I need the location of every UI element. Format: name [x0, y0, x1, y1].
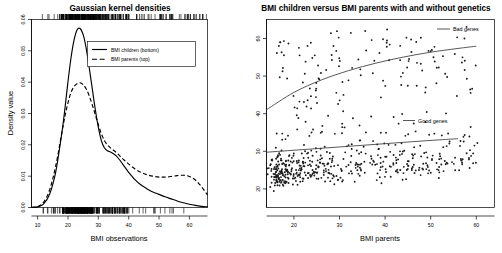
- right-y-axis: 20 30 40 50 60: [255, 20, 267, 208]
- left-rug-bottom: [43, 208, 184, 214]
- right-y-tick-1: 30: [255, 148, 261, 154]
- right-x-axis-label: BMI parents: [360, 234, 400, 243]
- left-y-tick-4: 0.04: [20, 77, 26, 87]
- right-plot-frame: [267, 20, 495, 208]
- left-x-tick-1: 20: [65, 222, 71, 228]
- left-x-tick-0: 10: [35, 222, 41, 228]
- legend-label-children: BMI children (bottom): [111, 47, 159, 53]
- left-x-axis: 10 20 30 40 50 60: [32, 216, 208, 228]
- left-plot-title: Gaussian kernel densities: [69, 4, 170, 13]
- left-plot-legend: BMI children (bottom) BMI parents (top): [88, 42, 196, 67]
- left-plot-panel: Gaussian kernel densities 0.00 0.01 0.02…: [0, 0, 251, 253]
- left-x-axis-label: BMI observations: [90, 234, 147, 243]
- scatter-points: [266, 26, 478, 192]
- trend-line-good-genes: [267, 139, 459, 153]
- left-y-tick-5: 0.05: [20, 46, 26, 56]
- left-x-tick-4: 50: [156, 222, 162, 228]
- figure-root: Gaussian kernel densities 0.00 0.01 0.02…: [0, 0, 502, 253]
- left-y-tick-3: 0.03: [20, 108, 26, 118]
- legend-label-parents: BMI parents (top): [111, 56, 150, 62]
- left-x-tick-3: 40: [126, 222, 132, 228]
- right-y-tick-4: 60: [255, 36, 261, 42]
- right-x-tick-3: 50: [428, 222, 434, 228]
- right-y-axis-label: BMI children: [251, 0, 272, 2]
- gaussian-kernel-densities-chart: Gaussian kernel densities 0.00 0.01 0.02…: [0, 0, 251, 253]
- left-rug-top: [42, 14, 206, 20]
- right-x-tick-0: 20: [291, 222, 297, 228]
- left-y-tick-2: 0.02: [20, 140, 26, 150]
- left-y-tick-labels: 0.00 0.01 0.02 0.03 0.04 0.05 0.06: [20, 14, 32, 212]
- right-x-tick-2: 40: [382, 222, 388, 228]
- annotation-bad-genes: Bad genes: [453, 26, 479, 32]
- annotation-good-genes: Good genes: [418, 118, 448, 124]
- right-y-tick-0: 20: [255, 186, 261, 192]
- left-y-tick-6: 0.06: [20, 14, 26, 24]
- right-y-tick-2: 40: [255, 111, 261, 117]
- right-y-tick-3: 50: [255, 73, 261, 79]
- left-x-tick-2: 30: [95, 222, 101, 228]
- left-y-tick-1: 0.01: [20, 171, 26, 181]
- right-x-axis: 20 30 40 50 60: [267, 216, 495, 228]
- density-curve-parents: [32, 83, 208, 208]
- left-y-axis-label: Density value: [6, 91, 15, 135]
- right-x-tick-1: 30: [337, 222, 343, 228]
- left-x-tick-5: 60: [187, 222, 193, 228]
- left-y-axis: 0.00 0.01 0.02 0.03 0.04 0.05 0.06: [20, 14, 32, 212]
- right-plot-title: BMI children versus BMI parents with and…: [261, 4, 491, 13]
- right-x-tick-4: 60: [473, 222, 479, 228]
- left-y-tick-0: 0.00: [20, 202, 26, 212]
- trend-line-bad-genes: [267, 46, 477, 110]
- right-plot-panel: BMI children versus BMI parents with and…: [251, 0, 502, 253]
- bmi-children-vs-parents-chart: BMI children versus BMI parents with and…: [251, 0, 502, 253]
